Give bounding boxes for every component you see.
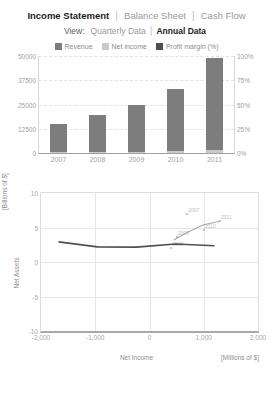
chart-legend: Revenue Net income Profit margin (%) (0, 43, 273, 50)
y-axis-tick-left: 25000 (18, 102, 39, 109)
y-axis-tick-right: 50% (234, 102, 250, 109)
x-axis-tick: -1,000 (86, 331, 104, 341)
view-selector: View: Quarterly Data | Annual Data (0, 25, 273, 37)
x-axis-unit-label: [Millions of $] (221, 354, 259, 361)
bar-chart-plot-area: 50000 37500 25000 12500 0 100% 75% 50% 2… (38, 56, 235, 154)
y-axis-tick-right: 100% (234, 53, 254, 60)
y-axis-tick-right: 25% (234, 126, 250, 133)
x-axis-tick: -2,000 (32, 331, 50, 341)
legend-swatch-revenue (55, 43, 62, 50)
view-option-quarterly[interactable]: Quarterly Data (88, 25, 149, 37)
x-axis-tick: 2,000 (250, 331, 266, 341)
legend-swatch-profit-margin (156, 43, 163, 50)
statement-tabs: Income Statement | Balance Sheet | Cash … (0, 9, 273, 22)
tab-balance-sheet[interactable]: Balance Sheet (118, 10, 192, 22)
y-axis-tick-right: 0% (234, 150, 246, 157)
income-statement-bar-chart: 50000 37500 25000 12500 0 100% 75% 50% 2… (0, 52, 273, 172)
y-axis-title: Net Assets (13, 257, 20, 288)
y-axis-tick-left: 50000 (18, 53, 39, 60)
tab-cash-flow[interactable]: Cash Flow (195, 10, 252, 22)
y-axis-tick-right: 75% (234, 77, 250, 84)
legend-item-profit-margin[interactable]: Profit margin (%) (156, 43, 219, 50)
legend-item-revenue[interactable]: Revenue (55, 43, 93, 50)
view-label: View: (64, 25, 85, 37)
tab-income-statement[interactable]: Income Statement (21, 10, 115, 22)
x-axis-tick: 0 (148, 331, 152, 341)
y-axis-unit-label: [Billions of $] (1, 173, 8, 210)
legend-item-net-income[interactable]: Net income (102, 43, 147, 50)
legend-swatch-net-income (102, 43, 109, 50)
y-axis-tick-left: 37500 (18, 77, 39, 84)
legend-label-revenue: Revenue (65, 43, 93, 50)
y-axis-tick: -5 (32, 294, 41, 301)
x-axis-tick: 1,000 (196, 331, 212, 341)
profit-margin-line (39, 56, 234, 251)
y-axis-tick-left: 12500 (18, 126, 39, 133)
legend-label-profit-margin: Profit margin (%) (166, 43, 219, 50)
view-option-annual[interactable]: Annual Data (153, 25, 209, 37)
legend-label-net-income: Net income (112, 43, 147, 50)
y-axis-tick: 0 (34, 259, 41, 266)
y-axis-tick-left: 0 (32, 150, 39, 157)
page-header: Income Statement | Balance Sheet | Cash … (0, 0, 273, 37)
